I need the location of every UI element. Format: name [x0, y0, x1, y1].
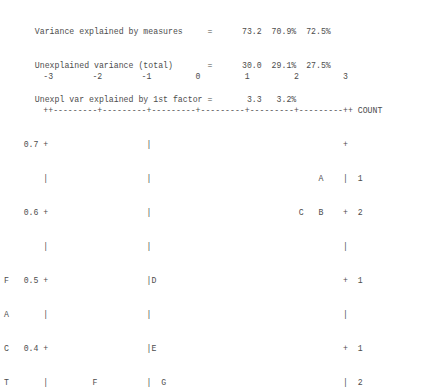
plot-row-0.4: C 0.4 + |E + 1 [4, 343, 382, 354]
plot-row-0.5: F 0.5 + |D + 1 [4, 275, 382, 286]
residual-contrast-plot-page: Variance explained by measures = 73.2 70… [0, 0, 443, 388]
ascii-scatter-plot: -3 -2 -1 0 1 2 3 ++---------+---------+-… [4, 48, 382, 388]
plot-row-0.55: | | | [4, 241, 382, 252]
plot-top-axis-line: ++---------+---------+---------+--------… [4, 105, 382, 116]
plot-row-0.6: 0.6 + | C B + 2 [4, 207, 382, 218]
plot-row-0.35: T | F | G | 2 [4, 377, 382, 388]
plot-row-0.65: | | A | 1 [4, 173, 382, 184]
plot-x-axis-top-ticks: -3 -2 -1 0 1 2 3 [4, 71, 382, 82]
plot-row-0.45: A | | | [4, 309, 382, 320]
variance-row-measures: Variance explained by measures = 73.2 70… [20, 26, 331, 37]
plot-row-0.7: 0.7 + | + [4, 139, 382, 150]
